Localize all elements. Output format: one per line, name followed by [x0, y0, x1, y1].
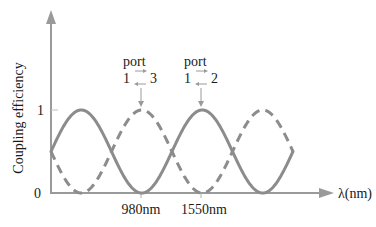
annotation-port-2-right: 2 [211, 71, 218, 86]
x-tick-label-1550: 1550nm [181, 202, 227, 217]
x-axis-label: λ(nm) [338, 186, 372, 202]
annotation-port-label-1: port [123, 54, 146, 69]
x-axis-arrow-icon [319, 188, 334, 198]
arrowhead-right-icon [143, 69, 147, 73]
arrow-down-icon [138, 101, 144, 107]
annotation-port-2-left: 1 [184, 71, 191, 86]
arrowhead-right-icon [204, 69, 208, 73]
y-tick-label-1: 1 [37, 103, 44, 118]
x-tick-label-980: 980nm [122, 202, 161, 217]
y-axis-label: Coupling efficiency [11, 62, 26, 173]
arrow-down-icon [198, 101, 204, 107]
y-axis-arrow-icon [46, 10, 56, 24]
y-tick-label-0: 0 [34, 186, 41, 201]
dashed-curve-port-1-3 [51, 110, 293, 193]
arrowhead-left-icon [195, 82, 199, 86]
coupling-efficiency-chart: port 1 3 port 1 2 1 0 980nm 1550nm λ(nm)… [0, 0, 376, 227]
annotation-port-1-left: 1 [123, 71, 130, 86]
arrowhead-left-icon [134, 82, 138, 86]
annotation-port-label-2: port [184, 54, 207, 69]
chart-svg: port 1 3 port 1 2 1 0 980nm 1550nm λ(nm)… [0, 0, 376, 227]
axes [50, 22, 322, 194]
annotation-port-1-right: 3 [150, 71, 157, 86]
